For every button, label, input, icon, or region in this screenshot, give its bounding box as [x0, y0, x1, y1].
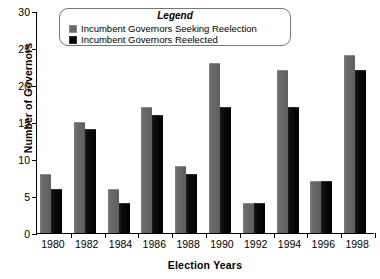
legend-title: Legend [60, 10, 290, 21]
x-axis-tick-label: 1998 [334, 238, 380, 250]
bar-seeking [277, 70, 288, 233]
bar-seeking [74, 122, 85, 233]
legend-label-reelected: Incumbent Governors Reelected [81, 35, 218, 45]
bar-group [307, 12, 341, 233]
bar-reelected [85, 129, 96, 233]
y-axis-tick [32, 49, 37, 50]
bar-seeking [108, 189, 119, 233]
y-axis-tick [32, 123, 37, 124]
bar-chart: Number of Governors 051015202530 1980198… [0, 0, 380, 279]
legend-item-seeking: Incumbent Governors Seeking Reelection [69, 23, 257, 34]
legend: Legend Incumbent Governors Seeking Reele… [59, 8, 291, 46]
y-axis-tick-label: 30 [0, 7, 30, 18]
bar-reelected [119, 203, 130, 233]
bar-seeking [209, 63, 220, 233]
bar-reelected [220, 107, 231, 233]
bar-reelected [355, 70, 366, 233]
bar-seeking [243, 203, 254, 233]
legend-swatch-seeking-icon [69, 25, 77, 33]
legend-item-reelected: Incumbent Governors Reelected [69, 34, 218, 45]
y-axis-tick-label: 25 [0, 44, 30, 55]
bar-reelected [288, 107, 299, 233]
y-axis-tick-label: 5 [0, 192, 30, 203]
legend-label-seeking: Incumbent Governors Seeking Reelection [81, 24, 257, 34]
bar-group [341, 12, 375, 233]
y-axis-tick [32, 12, 37, 13]
bar-reelected [186, 174, 197, 233]
y-axis-tick-label: 20 [0, 81, 30, 92]
y-axis-tick-labels: 051015202530 [0, 0, 30, 279]
bar-reelected [321, 181, 332, 233]
x-axis-tick-labels: 1980198219841986198819901992199419961998 [36, 238, 374, 254]
legend-swatch-reelected-icon [69, 36, 77, 44]
y-axis-tick-label: 10 [0, 155, 30, 166]
y-axis-tick-label: 15 [0, 118, 30, 129]
y-axis-tick [32, 234, 37, 235]
bar-seeking [40, 174, 51, 233]
y-axis-tick [32, 160, 37, 161]
y-axis-tick-label: 0 [0, 229, 30, 240]
x-axis-title: Election Years [36, 259, 374, 271]
bar-reelected [254, 203, 265, 233]
bar-seeking [310, 181, 321, 233]
bar-seeking [175, 166, 186, 233]
bar-reelected [152, 115, 163, 233]
bar-seeking [344, 55, 355, 233]
y-axis-tick [32, 197, 37, 198]
bar-reelected [51, 189, 62, 233]
bar-seeking [141, 107, 152, 233]
y-axis-tick [32, 86, 37, 87]
